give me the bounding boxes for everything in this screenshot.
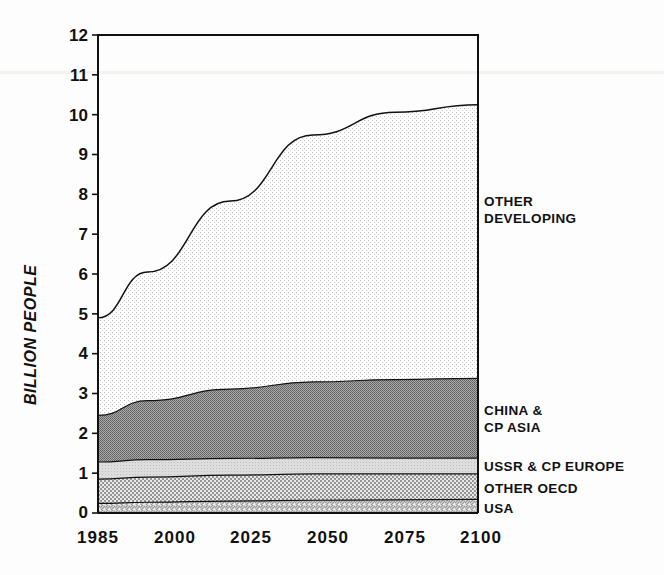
y-tick-label: 12 xyxy=(48,26,88,46)
x-tick-label: 2075 xyxy=(370,528,440,548)
legend-text-line: CHINA & xyxy=(484,402,543,419)
legend-text-line: DEVELOPING xyxy=(484,210,577,227)
legend-label-ussr-cp-europe: USSR & CP EUROPE xyxy=(484,458,624,475)
y-tick-label: 10 xyxy=(48,106,88,126)
legend-label-china-cp-asia: CHINA & CP ASIA xyxy=(484,402,543,436)
y-tick-label: 1 xyxy=(48,464,88,484)
y-tick-label: 0 xyxy=(48,503,88,523)
x-tick-label: 2100 xyxy=(446,528,516,548)
y-tick-label: 9 xyxy=(48,145,88,165)
y-tick-label: 2 xyxy=(48,424,88,444)
x-tick-label: 1985 xyxy=(63,528,133,548)
y-tick-label: 7 xyxy=(48,225,88,245)
chart-figure: BILLION PEOPLE 12 11 10 9 8 7 6 5 4 3 2 … xyxy=(0,0,664,575)
y-tick-label: 5 xyxy=(48,305,88,325)
y-tick-label: 4 xyxy=(48,344,88,364)
y-tick-label: 3 xyxy=(48,384,88,404)
y-axis-title: BILLION PEOPLE xyxy=(22,265,40,405)
y-tick-label: 6 xyxy=(48,265,88,285)
legend-text-line: OTHER xyxy=(484,193,577,210)
legend-label-other-developing: OTHER DEVELOPING xyxy=(484,193,577,227)
legend-text-line: CP ASIA xyxy=(484,419,543,436)
x-tick-label: 2000 xyxy=(140,528,210,548)
legend-label-usa: USA xyxy=(484,500,514,517)
y-tick-label: 11 xyxy=(48,66,88,86)
legend-label-other-oecd: OTHER OECD xyxy=(484,480,578,497)
x-tick-label: 2050 xyxy=(293,528,363,548)
y-tick-label: 8 xyxy=(48,185,88,205)
x-tick-label: 2025 xyxy=(216,528,286,548)
